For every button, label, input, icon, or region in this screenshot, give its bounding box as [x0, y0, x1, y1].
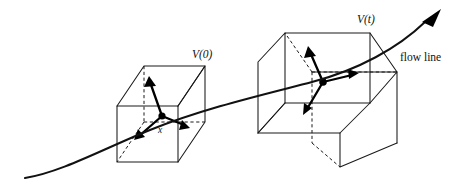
figure-canvas: x V(0)	[0, 0, 470, 184]
flow-line-arrowhead	[422, 9, 441, 27]
flow-line-path	[25, 22, 425, 178]
cube-Vt	[258, 33, 397, 167]
label-flow-line: flow line	[400, 51, 441, 63]
up-vector-head	[144, 76, 156, 87]
down-left-vector	[307, 82, 323, 109]
cube-Vt-solid-edges	[258, 33, 397, 167]
cube-Vt-vectors	[303, 46, 359, 115]
material-point-x	[158, 112, 165, 119]
up-vector	[150, 82, 162, 116]
cube-Vt-hidden-edges	[285, 33, 397, 167]
label-Vt: V(t)	[357, 13, 375, 26]
label-V0: V(0)	[192, 48, 213, 61]
diagram-svg: x V(0)	[0, 0, 470, 184]
up-vector-head	[304, 46, 316, 58]
